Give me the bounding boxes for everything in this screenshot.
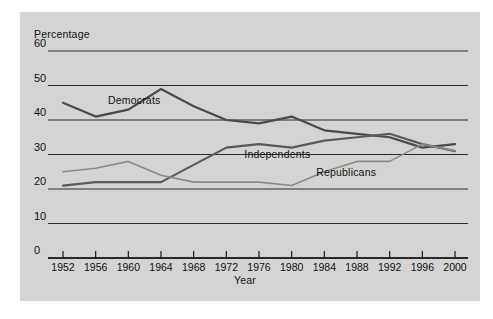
x-tick-label: 1980 (280, 261, 303, 273)
x-tick-label: 1992 (378, 261, 401, 273)
figure-root: Percentage Year 0102030405060 1952195619… (0, 0, 493, 319)
x-tick-label: 1968 (182, 261, 205, 273)
series-label-democrats: Democrats (108, 94, 161, 106)
x-tick-label: 1952 (51, 261, 74, 273)
x-axis-group (48, 251, 468, 258)
series-label-republicans: Republicans (316, 166, 376, 178)
x-tick-label: 1996 (411, 261, 434, 273)
chart-panel: Percentage Year 0102030405060 1952195619… (20, 12, 480, 301)
x-tick-label: 1976 (247, 261, 270, 273)
y-tick-label: 20 (34, 175, 46, 187)
y-tick-label: 10 (34, 210, 46, 222)
x-tick-label: 1956 (84, 261, 107, 273)
x-tick-label: 1984 (313, 261, 336, 273)
x-tick-label: 1988 (345, 261, 368, 273)
y-tick-label: 40 (34, 106, 46, 118)
x-tick-label: 1960 (117, 261, 140, 273)
series-label-independents: Independents (244, 148, 310, 160)
y-tick-label: 30 (34, 141, 46, 153)
y-tick-label: 60 (34, 37, 46, 49)
x-tick-label: 1964 (149, 261, 172, 273)
x-tick-label: 2000 (443, 261, 466, 273)
y-tick-label: 0 (34, 244, 40, 256)
y-tick-label: 50 (34, 72, 46, 84)
x-tick-label: 1972 (215, 261, 238, 273)
